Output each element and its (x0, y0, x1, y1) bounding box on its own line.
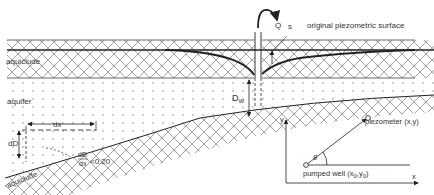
x-axis-label: x (412, 172, 416, 181)
aquifer-diagram: aquiclude aquifer Q s original piezometr… (0, 0, 434, 195)
y-axis-label: y (280, 115, 284, 124)
slope-denominator: dx (79, 160, 87, 167)
angle-label: θ (313, 153, 317, 162)
dD-label: dD (8, 139, 18, 148)
top-aquiclude-layer (7, 40, 434, 78)
slope-condition: <0.20 (90, 157, 111, 166)
pumped-well-label: pumped well (x0,y0) (303, 169, 369, 179)
slope-numerator: dD (78, 151, 87, 158)
piezometer-label: piezometer (x,y) (365, 117, 419, 126)
discharge-label: Q (275, 21, 281, 30)
pumped-well-marker (304, 163, 309, 168)
aquiclude-top-label: aquiclude (6, 57, 41, 66)
drawdown-label: s (288, 22, 292, 31)
dx-label: dx (53, 120, 61, 129)
aquifer-label: aquifer (7, 97, 32, 106)
original-surface-label: original piezometric surface (307, 21, 405, 30)
